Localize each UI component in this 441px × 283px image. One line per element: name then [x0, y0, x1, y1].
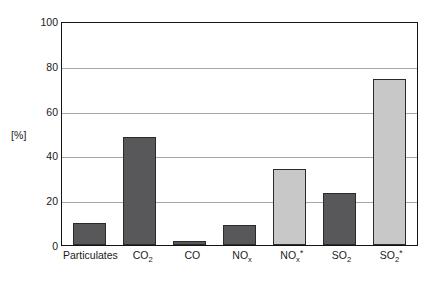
bar-slot — [365, 23, 415, 245]
bar-nox[interactable] — [223, 225, 256, 245]
bar-slot — [164, 23, 214, 245]
y-axis-tick-labels: 100806040200 — [0, 0, 58, 283]
x-tick-label-base: SO — [332, 249, 347, 261]
x-tick-label-superscript: * — [399, 248, 402, 258]
bar-co[interactable] — [173, 241, 206, 245]
x-tick-label: CO — [168, 249, 218, 275]
y-tick-label: 40 — [2, 151, 58, 161]
x-tick-label-base: SO — [380, 249, 395, 261]
bar-slot — [64, 23, 114, 245]
y-tick-label: 20 — [2, 196, 58, 206]
y-tick-label: 80 — [2, 62, 58, 72]
x-tick-label: SO2* — [366, 249, 416, 275]
bar-slot — [315, 23, 365, 245]
bar-particulates[interactable] — [73, 223, 106, 245]
bar-chart: [%] 100806040200 ParticulatesCO2CONOxNOx… — [0, 0, 441, 283]
bar-slot — [114, 23, 164, 245]
bar-slot — [265, 23, 315, 245]
x-tick-label-base: NO — [232, 249, 248, 261]
x-tick-label: Particulates — [63, 249, 118, 275]
x-tick-label-subscript: x — [248, 255, 252, 264]
y-tick-label: 0 — [2, 241, 58, 251]
bar-co2[interactable] — [123, 137, 156, 245]
x-tick-label-base: CO — [133, 249, 149, 261]
x-tick-label: NOx — [217, 249, 267, 275]
x-tick-label-superscript: * — [300, 248, 303, 258]
x-tick-label-base: Particulates — [63, 249, 118, 261]
x-tick-label-subscript: 2 — [148, 255, 152, 264]
x-tick-label-base: NO — [280, 249, 296, 261]
x-tick-label-subscript: 2 — [347, 255, 351, 264]
bar-slot — [214, 23, 264, 245]
x-tick-label: SO2 — [317, 249, 367, 275]
plot-area — [61, 22, 418, 246]
x-tick-label-base: CO — [185, 249, 201, 261]
y-tick-label: 100 — [2, 17, 58, 27]
x-tick-label: CO2 — [118, 249, 168, 275]
x-axis-tick-labels: ParticulatesCO2CONOxNOx*SO2SO2* — [61, 249, 418, 275]
bars-layer — [62, 23, 417, 245]
bar-nox-star[interactable] — [273, 169, 306, 245]
x-tick-label: NOx* — [267, 249, 317, 275]
bar-so2-star[interactable] — [373, 79, 406, 245]
bar-so2[interactable] — [323, 193, 356, 245]
y-tick-label: 60 — [2, 107, 58, 117]
